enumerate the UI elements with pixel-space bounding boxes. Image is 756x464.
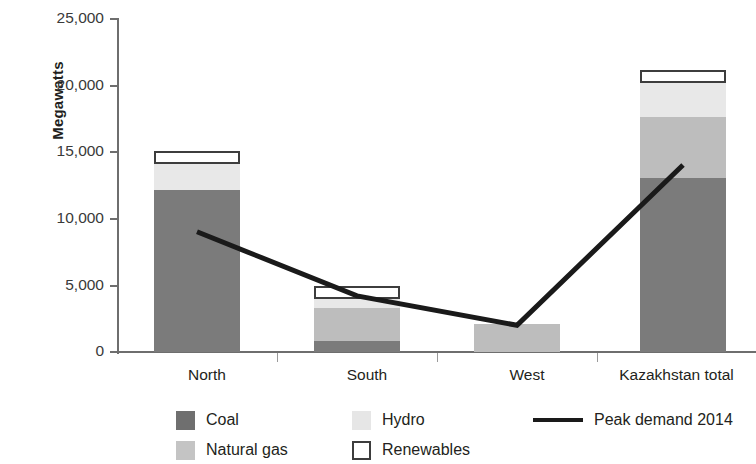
- x-tick-label-west: West: [457, 366, 597, 384]
- y-tick-label-20000: 20,000: [0, 77, 104, 93]
- y-tick-label-5000: 5,000: [0, 277, 104, 293]
- y-tick-label-10000: 10,000: [0, 210, 104, 226]
- legend-label-coal: Coal: [206, 412, 239, 428]
- y-tick-mark-20000: [110, 85, 118, 87]
- bar-group-south[interactable]: [314, 18, 400, 352]
- y-tick-label-25000: 25,000: [0, 10, 104, 26]
- bar-segment-west-natural-gas: [474, 324, 560, 352]
- legend-item-coal[interactable]: Coal: [176, 408, 239, 432]
- x-tick-label-north: North: [137, 366, 277, 384]
- x-axis-divider-3: [597, 353, 598, 362]
- bar-segment-south-coal: [314, 341, 400, 352]
- legend-swatch-renewables-icon: [352, 441, 371, 460]
- bar-group-kazakhstan-total[interactable]: [640, 18, 726, 352]
- y-tick-mark-25000: [110, 18, 118, 20]
- bar-segment-south-natural-gas: [314, 308, 400, 341]
- legend-label-hydro: Hydro: [382, 412, 425, 428]
- chart-legend: Coal Natural gas Hydro Renewables Peak d…: [176, 406, 756, 464]
- y-axis-title: Megawatts: [49, 6, 66, 196]
- bar-segment-kazakhstan-total-hydro: [640, 83, 726, 116]
- bar-segment-north-hydro: [154, 164, 240, 190]
- x-tick-label-kazakhstan-total: Kazakhstan total: [597, 366, 756, 384]
- x-tick-label-south: South: [297, 366, 437, 384]
- legend-swatch-natural-gas-icon: [176, 441, 195, 460]
- legend-label-peak-demand: Peak demand 2014: [594, 412, 733, 428]
- legend-item-renewables[interactable]: Renewables: [352, 438, 470, 462]
- legend-item-hydro[interactable]: Hydro: [352, 408, 425, 432]
- legend-label-renewables: Renewables: [382, 442, 470, 458]
- bar-segment-south-renewables: [314, 286, 400, 299]
- y-tick-label-0: 0: [0, 343, 104, 359]
- bar-segment-north-renewables: [154, 151, 240, 164]
- legend-swatch-peak-demand-line-icon: [533, 418, 583, 422]
- bar-segment-south-hydro: [314, 299, 400, 308]
- y-tick-mark-15000: [110, 151, 118, 153]
- chart-figure: Megawatts 25,000 20,000 15,000 10,000 5,…: [0, 0, 756, 464]
- y-tick-mark-10000: [110, 218, 118, 220]
- y-tick-mark-5000: [110, 285, 118, 287]
- x-axis-divider-2: [437, 353, 438, 362]
- bar-segment-north-coal: [154, 190, 240, 352]
- x-axis-divider-1: [277, 353, 278, 362]
- bar-group-west[interactable]: [474, 18, 560, 352]
- bar-group-north[interactable]: [154, 18, 240, 352]
- legend-label-natural-gas: Natural gas: [206, 442, 288, 458]
- legend-item-natural-gas[interactable]: Natural gas: [176, 438, 288, 462]
- bar-segment-kazakhstan-total-coal: [640, 178, 726, 352]
- bar-segment-kazakhstan-total-natural-gas: [640, 117, 726, 178]
- legend-swatch-hydro-icon: [352, 411, 371, 430]
- legend-item-peak-demand[interactable]: Peak demand 2014: [533, 408, 733, 432]
- y-tick-label-15000: 15,000: [0, 143, 104, 159]
- plot-area: [118, 18, 756, 352]
- legend-swatch-coal-icon: [176, 411, 195, 430]
- bar-segment-kazakhstan-total-renewables: [640, 70, 726, 83]
